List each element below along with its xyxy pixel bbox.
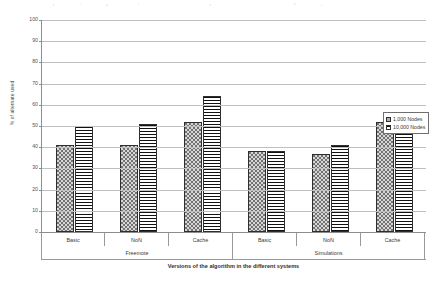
- bar-cache-series-1: [376, 122, 394, 232]
- y-tick-mark-80: [39, 62, 42, 63]
- chart-legend: 1,000 Nodes 10,000 Nodes: [383, 112, 429, 134]
- bar-basic-series-2: [75, 126, 93, 232]
- y-axis-tick-40: 40: [16, 145, 38, 150]
- category-axis-baseline: [41, 259, 426, 260]
- y-tick-mark-10: [39, 211, 42, 212]
- gridline-70: [42, 84, 426, 85]
- y-axis-tick-0: 0: [16, 229, 38, 234]
- category-axis: BasicNoNCacheBasicNoNCache FreemoteSimul…: [41, 233, 426, 261]
- y-tick-mark-70: [39, 84, 42, 85]
- legend-item-series-2: 10,000 Nodes: [386, 123, 425, 131]
- y-axis-tick-labels: 0102030405060708090100: [16, 14, 38, 233]
- y-axis-tick-30: 30: [16, 166, 38, 171]
- legend-swatch-10000-nodes: [386, 125, 391, 130]
- legend-item-series-1: 1,000 Nodes: [386, 115, 425, 123]
- category-label-basic-0: Basic: [41, 233, 105, 246]
- y-tick-mark-30: [39, 168, 42, 169]
- y-tick-mark-60: [39, 105, 42, 106]
- y-axis-title: % of alternate used: [9, 60, 15, 146]
- group-label-freemote: Freemote: [41, 246, 233, 259]
- legend-label-1000-nodes: 1,000 Nodes: [393, 116, 422, 122]
- category-label-non-1: NoN: [105, 233, 169, 246]
- bar-cache-series-1: [184, 122, 202, 232]
- y-axis-tick-90: 90: [16, 39, 38, 44]
- y-tick-mark-40: [39, 147, 42, 148]
- group-label-simulations: Simulations: [233, 246, 425, 259]
- gridline-90: [42, 41, 426, 42]
- bar-non-series-2: [139, 124, 157, 232]
- category-label-cache-5: Cache: [361, 233, 425, 246]
- gridline-40: [42, 147, 426, 148]
- bar-chart-figure: % of alternate used 01020304050607080901…: [0, 0, 447, 282]
- bar-non-series-1: [312, 154, 330, 232]
- y-axis-tick-70: 70: [16, 81, 38, 86]
- bar-non-series-2: [331, 145, 349, 232]
- y-tick-mark-50: [39, 126, 42, 127]
- y-axis-tick-50: 50: [16, 123, 38, 128]
- y-tick-mark-20: [39, 190, 42, 191]
- scan-artifact-strip: [0, 0, 447, 9]
- category-label-cache-2: Cache: [169, 233, 233, 246]
- gridline-30: [42, 168, 426, 169]
- plot-area: [41, 20, 426, 233]
- bar-basic-series-1: [248, 151, 266, 232]
- category-axis-tier-groups: FreemoteSimulations: [41, 246, 426, 259]
- y-axis-tick-20: 20: [16, 187, 38, 192]
- bar-basic-series-2: [267, 151, 285, 232]
- bar-basic-series-1: [56, 145, 74, 232]
- category-label-basic-3: Basic: [233, 233, 297, 246]
- y-axis-tick-100: 100: [16, 17, 38, 22]
- y-axis-tick-80: 80: [16, 60, 38, 65]
- gridline-100: [42, 20, 426, 21]
- gridline-50: [42, 126, 426, 127]
- bar-cache-series-2: [395, 124, 413, 232]
- y-axis-tick-60: 60: [16, 102, 38, 107]
- y-axis-tick-10: 10: [16, 208, 38, 213]
- category-label-non-4: NoN: [297, 233, 361, 246]
- y-tick-mark-90: [39, 41, 42, 42]
- gridline-20: [42, 190, 426, 191]
- bar-non-series-1: [120, 145, 138, 232]
- legend-swatch-1000-nodes: [386, 117, 391, 122]
- y-tick-mark-100: [39, 20, 42, 21]
- gridline-60: [42, 105, 426, 106]
- x-axis-title: Versions of the algorithm in the differe…: [41, 263, 426, 269]
- legend-label-10000-nodes: 10,000 Nodes: [393, 124, 425, 130]
- gridline-10: [42, 211, 426, 212]
- gridline-80: [42, 62, 426, 63]
- category-axis-tier-categories: BasicNoNCacheBasicNoNCache: [41, 233, 426, 246]
